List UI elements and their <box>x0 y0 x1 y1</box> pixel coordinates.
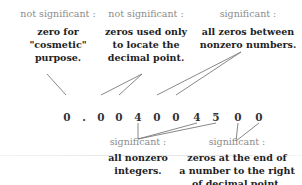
bottom-right-description: zeros at the end of a number to the righ… <box>179 151 295 185</box>
bottom-middle-description: all nonzero integers. <box>108 151 168 177</box>
bottom-middle-label: significant : <box>110 136 167 147</box>
decimal-point: . <box>82 111 86 123</box>
bottom-right-line-3: of decimal point. <box>179 177 295 185</box>
bottom-right-line-1: zeros at the end of <box>179 151 295 164</box>
bottom-right-label: significant : <box>209 136 266 147</box>
digit-2: 0 <box>97 111 104 123</box>
bottom-middle-line-2: integers. <box>108 164 168 177</box>
digit-5: 0 <box>153 111 160 123</box>
digit-10: 0 <box>255 111 262 123</box>
digit-3: 0 <box>115 111 122 123</box>
digit-6: 0 <box>172 111 179 123</box>
digit-0: 0 <box>63 111 70 123</box>
digit-9: 0 <box>234 111 241 123</box>
bottom-middle-line-1: all nonzero <box>108 151 168 164</box>
digit-8: 5 <box>212 111 219 123</box>
digit-7: 4 <box>193 111 200 123</box>
digit-4: 4 <box>134 111 141 123</box>
bottom-right-line-2: a number to the right <box>179 164 295 177</box>
